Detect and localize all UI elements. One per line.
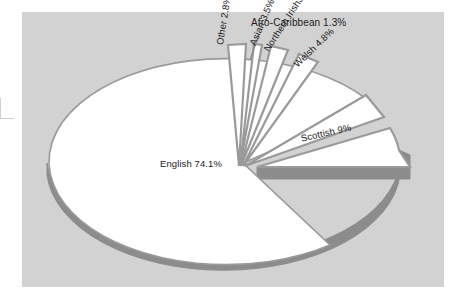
depth-scottish bbox=[257, 167, 410, 179]
slice-label-english: English 74.1% bbox=[160, 159, 222, 169]
pie-graphic bbox=[0, 0, 463, 301]
pie-chart-figure: Afro-Caribbean 1.3% Other 2.8% Asian 3.5… bbox=[0, 0, 463, 301]
